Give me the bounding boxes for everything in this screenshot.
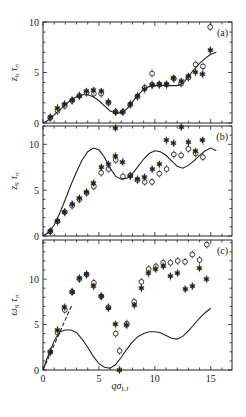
y-tick-label: 10 [29,139,39,150]
open-circle-marker [150,71,155,76]
star-marker: ✱ [167,272,174,281]
star-marker: ✱ [112,152,119,161]
y-axis-label: ωS τσ [8,294,21,315]
star-marker: ✱ [170,74,177,83]
theory-curve [43,52,216,123]
open-circle-marker [168,260,173,265]
star-marker: ✱ [123,321,130,330]
star-marker: ✱ [69,288,76,297]
open-circle-marker [171,152,176,157]
open-circle-marker [190,252,195,257]
open-circle-marker [179,153,184,158]
open-circle-marker [208,25,213,30]
star-marker: ✱ [90,86,97,95]
star-marker: ✱ [98,87,105,96]
x-axis-label: qσLJ [112,380,129,393]
y-tick-label: 0 [34,231,39,242]
star-marker: ✱ [76,274,83,283]
star-marker: ✱ [178,123,185,132]
star-marker: ✱ [61,208,68,217]
panel-c: 0510051015ωS τσ(c)✱✱✱✱✱✱✱✱✱✱✱✱✱✱✱✱✱✱✱✱✱✱… [8,240,232,384]
star-marker: ✱ [90,179,97,188]
panels: 0510zh τσ(a)✱✱✱✱✱✱✱✱✱✱✱✱✱✱✱✱✱✱✱✱✱✱✱0510z… [8,17,232,385]
star-marker: ✱ [131,301,138,310]
x-tick-label: 5 [96,373,101,384]
open-circle-marker [164,167,169,172]
star-marker: ✱ [105,304,112,313]
panel-label: (b) [216,131,228,143]
y-tick-label: 0 [34,365,39,376]
star-marker: ✱ [61,303,68,312]
star-marker: ✱ [76,194,83,203]
star-marker: ✱ [156,80,163,89]
star-marker: ✱ [170,139,177,148]
open-circle-marker [204,242,209,247]
star-marker: ✱ [90,282,97,291]
figure: 0510zh τσ(a)✱✱✱✱✱✱✱✱✱✱✱✱✱✱✱✱✱✱✱✱✱✱✱0510z… [0,0,246,417]
y-tick-label: 10 [29,274,39,285]
star-marker: ✱ [116,366,123,375]
star-marker: ✱ [134,175,141,184]
star-marker: ✱ [141,85,148,94]
star-marker: ✱ [185,138,192,147]
star-marker: ✱ [83,270,90,279]
star-marker: ✱ [98,292,105,301]
star-marker: ✱ [156,160,163,169]
theory-curve [43,148,216,236]
star-marker: ✱ [163,136,170,145]
star-marker: ✱ [182,285,189,294]
star-marker: ✱ [192,147,199,156]
x-tick-label: 0 [41,373,46,384]
star-marker: ✱ [203,275,210,284]
y-tick-label: 5 [34,185,39,196]
panel-a: 0510zh τσ(a)✱✱✱✱✱✱✱✱✱✱✱✱✱✱✱✱✱✱✱✱✱✱✱ [8,17,232,129]
open-circle-marker [113,331,118,336]
star-marker: ✱ [112,320,119,329]
star-marker: ✱ [69,96,76,105]
open-circle-marker [175,259,180,264]
star-marker: ✱ [149,165,156,174]
star-marker: ✱ [105,98,112,107]
panel-label: (c) [217,245,228,257]
star-marker: ✱ [47,227,54,236]
star-marker: ✱ [174,269,181,278]
panel-label: (a) [217,27,228,39]
y-tick-label: 5 [34,67,39,78]
open-circle-marker [121,174,126,179]
panel-b: 0510zS τσ(b)✱✱✱✱✱✱✱✱✱✱✱✱✱✱✱✱✱✱✱✱✱✱✱ [8,123,232,242]
theory-curve [43,308,211,370]
dashed-slope-line [43,305,72,371]
x-tick-label: 15 [206,373,216,384]
star-marker: ✱ [119,158,126,167]
x-tick-label: 10 [150,373,160,384]
star-marker: ✱ [138,284,145,293]
star-marker: ✱ [199,70,206,79]
star-marker: ✱ [152,265,159,274]
y-tick-label: 10 [29,17,39,28]
y-tick-label: 0 [34,118,39,129]
star-marker: ✱ [145,269,152,278]
y-axis-label: zS τσ [8,172,21,191]
open-circle-marker [183,259,188,264]
open-circle-marker [201,155,206,160]
star-marker: ✱ [112,124,119,133]
open-circle-marker [117,349,122,354]
star-marker: ✱ [189,282,196,291]
star-marker: ✱ [54,326,61,335]
open-circle-marker [150,180,155,185]
star-marker: ✱ [163,80,170,89]
star-marker: ✱ [98,163,105,172]
open-circle-marker [201,64,206,69]
star-marker: ✱ [196,264,203,273]
open-circle-marker [197,258,202,263]
y-axis-label: zh τσ [8,64,21,83]
star-marker: ✱ [199,136,206,145]
star-marker: ✱ [69,200,76,209]
open-circle-marker [157,171,162,176]
star-marker: ✱ [160,262,167,271]
y-tick-label: 5 [34,319,39,330]
star-marker: ✱ [83,188,90,197]
star-marker: ✱ [141,173,148,182]
